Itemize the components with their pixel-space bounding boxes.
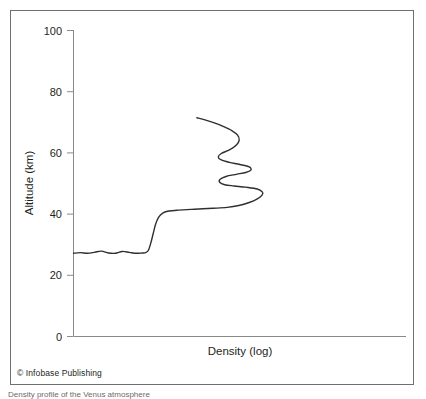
y-tick-label-60: 60 [50,147,62,159]
publisher-credit: © Infobase Publishing [17,368,102,378]
y-tick-label-0: 0 [56,331,62,343]
y-tick-label-20: 20 [50,269,62,281]
chart-plot: 100 80 60 40 20 0 Altitude (km) Density … [0,0,426,399]
density-profile-curve [74,118,263,254]
y-axis-ticks [67,31,74,337]
figure-root: 100 80 60 40 20 0 Altitude (km) Density … [0,0,426,399]
y-tick-label-80: 80 [50,86,62,98]
y-tick-label-40: 40 [50,208,62,220]
y-axis-title: Altitude (km) [23,151,35,216]
x-axis-title: Density (log) [208,345,273,357]
figure-caption: Density profile of the Venus atmosphere [8,390,426,399]
y-tick-label-100: 100 [44,25,62,37]
